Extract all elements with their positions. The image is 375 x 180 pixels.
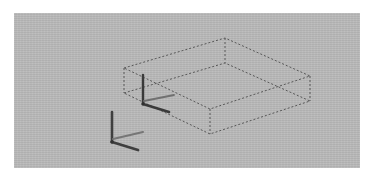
scene-canvas[interactable] [14,13,360,168]
screenshot-root: 3D Viewport Isometric Wireframe Selected… [0,0,375,180]
world-gizmo-x-axis[interactable] [112,142,138,150]
object-gizmo-origin[interactable] [141,102,144,105]
world-gizmo-label: World Axis Gizmo [0,0,1,1]
view-mode-label: Isometric Wireframe [0,0,1,1]
box-top-face [124,38,310,109]
perspective-viewport[interactable] [14,13,360,168]
world-gizmo-y-axis[interactable] [113,132,143,139]
selection-bounding-box[interactable] [124,38,310,134]
box-bottom-face [124,63,310,134]
world-gizmo-origin[interactable] [110,140,114,144]
object-gizmo-y-axis[interactable] [144,95,174,101]
selection-box-label: Selected Bounding Box [0,0,1,1]
world-axis-gizmo[interactable] [110,112,143,150]
object-gizmo-label: Object Transform Gizmo [0,0,1,1]
viewport-title: 3D Viewport [0,0,1,1]
object-gizmo-x-axis[interactable] [143,104,169,112]
object-transform-gizmo[interactable] [141,75,174,112]
